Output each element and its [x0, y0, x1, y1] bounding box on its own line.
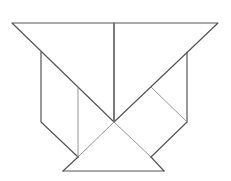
tangram-diagram	[0, 0, 231, 181]
right-inner-diagonal	[151, 87, 187, 122]
base-right-edge	[151, 157, 164, 171]
large-triangle-right-piece	[114, 23, 218, 122]
large-triangle-left-piece	[12, 23, 114, 122]
base-left-edge	[63, 157, 78, 171]
left-wall-outline	[41, 52, 78, 157]
